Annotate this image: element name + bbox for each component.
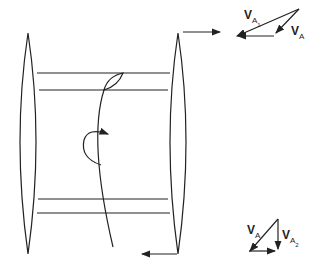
- left-end-plate: [20, 33, 36, 254]
- rotation-arrow-icon: [83, 132, 108, 165]
- label-v-a1: VA1: [244, 9, 261, 26]
- blade-slot: [104, 73, 123, 90]
- label-v-a-top: VA: [291, 25, 304, 40]
- label-v-a-bottom: VA: [247, 224, 260, 239]
- drum-diagram: [0, 0, 319, 266]
- label-v-a2: VA2: [282, 229, 299, 246]
- helix-line: [98, 90, 113, 247]
- right-end-plate: [170, 33, 186, 254]
